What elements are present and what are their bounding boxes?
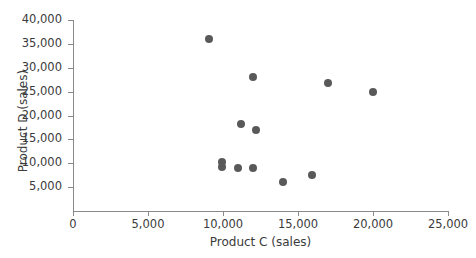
data-point [237,120,245,128]
data-point [249,73,257,81]
y-tick-label: 20,000 [0,110,62,122]
y-tick-label: 30,000 [0,62,62,74]
y-axis-title: Product D (sales) [17,51,29,191]
x-tick-label: 20,000 [353,219,393,231]
y-tick-label: 5,000 [0,181,62,193]
data-point [234,164,242,172]
y-tick-label: 15,000 [0,134,62,146]
x-tick-mark [73,211,74,216]
x-tick-mark [448,211,449,216]
y-tick-label: 35,000 [0,38,62,50]
x-axis-line [73,211,448,212]
x-tick-label: 10,000 [203,219,243,231]
y-tick-label: 25,000 [0,86,62,98]
data-point [324,79,332,87]
data-point [308,171,316,179]
data-point [218,163,226,171]
data-point [369,88,377,96]
data-point [252,126,260,134]
x-tick-mark [373,211,374,216]
x-tick-mark [298,211,299,216]
y-tick-label: 10,000 [0,158,62,170]
x-tick-mark [148,211,149,216]
x-axis-title: Product C (sales) [73,236,448,248]
data-point [205,35,213,43]
plot-area [73,20,448,211]
x-tick-label: 15,000 [278,219,318,231]
y-tick-label: 40,000 [0,14,62,26]
data-point [279,178,287,186]
x-tick-label: 5,000 [132,219,165,231]
x-tick-mark [223,211,224,216]
x-tick-label: 0 [69,219,76,231]
x-tick-label: 25,000 [428,219,468,231]
data-point [249,164,257,172]
scatter-chart: 5,00010,00015,00020,00025,00030,00035,00… [0,0,476,258]
